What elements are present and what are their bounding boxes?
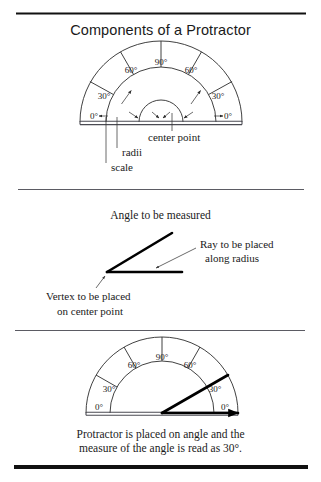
callout-ray-line-1: Ray to be placed [200,238,274,250]
degree-label-90: 90° [155,57,168,67]
protractor-diagram-top: 0° 30° 60° 90° 60° 30° 0° c [80,41,242,173]
degree-label-0-right: 0° [224,111,233,121]
figure-canvas: Components of a Protractor 0° 30° 60° [0,0,321,482]
callout-center-point: center point [148,131,200,143]
callout-vertex-line-1: Vertex to be placed [46,290,131,302]
angle-slanted-ray [107,233,172,272]
protractor-center-arc [139,100,183,122]
center-point-arrow-left [129,112,138,118]
page-title: Components of a Protractor [70,22,251,38]
degree-label-30-right: 30° [212,91,225,101]
bottom-degree-label-90: 90° [156,352,169,362]
center-point-arrow-right [184,112,193,118]
protractor-diagram-bottom: 0° 30° 60° 90° 60° 30° 0° Protractor is … [77,337,245,455]
panel-two-heading: Angle to be measured [110,209,211,222]
panel-three-caption-line-2: measure of the angle is read as 30°. [79,442,242,455]
bottom-degree-label-60-right: 60° [184,360,197,370]
callout-radii: radii [122,146,142,158]
vertex-callout-leader [96,276,105,288]
bottom-degree-label-60-left: 60° [128,360,141,370]
panel-three-caption-line-1: Protractor is placed on angle and the [77,428,245,441]
angle-diagram-middle: Angle to be measured Ray to be placed al… [46,209,274,317]
radii-arrow-right [191,91,201,105]
degree-label-30-left: 30° [98,91,111,101]
bottom-degree-label-0-right: 0° [221,402,230,412]
protractor-bottom-inner-arc [110,361,214,413]
callout-ray-line-2: along radius [205,252,259,264]
callout-scale: scale [111,161,133,173]
center-point-arrow-inner-right [163,112,170,118]
ray-callout-leader [156,248,196,268]
measured-angle-slanted-ray [162,375,228,413]
protractor-figure-root: Components of a Protractor 0° 30° 60° [0,0,321,482]
protractor-inner-arc [106,67,216,122]
degree-label-0-left: 0° [90,111,99,121]
bottom-degree-label-30-left: 30° [103,384,116,394]
center-point-arrow-inner-left [152,112,159,118]
radii-arrow-left [122,91,132,105]
callout-vertex-line-2: on center point [57,305,123,317]
degree-label-60-left: 60° [125,65,138,75]
bottom-degree-label-0-left: 0° [95,402,104,412]
degree-label-60-right: 60° [185,65,198,75]
